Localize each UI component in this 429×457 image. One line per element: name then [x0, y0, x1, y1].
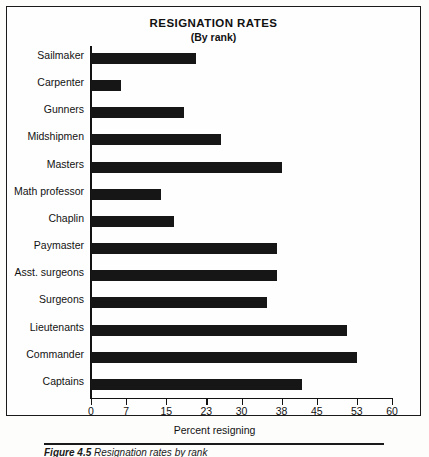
figure-caption: Figure 4.5 Resignation rates by rank	[44, 447, 404, 457]
category-label: Midshipmen	[27, 130, 84, 142]
bar	[91, 379, 302, 390]
bar	[91, 243, 277, 254]
bar	[91, 297, 267, 308]
x-tick-label: 53	[351, 405, 363, 417]
bar-row: Masters	[91, 155, 392, 182]
bar-row: Sailmaker	[91, 46, 392, 73]
chart-title-block: RESIGNATION RATES (By rank)	[7, 16, 420, 45]
category-label: Masters	[47, 158, 84, 170]
x-tick-label: 7	[123, 405, 129, 417]
caption-divider	[44, 443, 384, 445]
bar	[91, 80, 121, 91]
chart-title: RESIGNATION RATES	[7, 16, 420, 30]
bar-row: Midshipmen	[91, 127, 392, 154]
bar-row: Surgeons	[91, 290, 392, 317]
bar	[91, 352, 357, 363]
x-tick-label: 38	[276, 405, 288, 417]
x-tick-label: 30	[236, 405, 248, 417]
category-label: Math professor	[14, 185, 84, 197]
bar-row: Commander	[91, 345, 392, 372]
bar	[91, 162, 282, 173]
category-label: Captains	[43, 375, 84, 387]
bar	[91, 134, 221, 145]
chart-subtitle: (By rank)	[7, 31, 420, 44]
bar-row: Gunners	[91, 100, 392, 127]
bar-row: Paymaster	[91, 236, 392, 263]
bar	[91, 216, 174, 227]
category-label: Lieutenants	[30, 321, 84, 333]
category-label: Carpenter	[37, 76, 84, 88]
x-tick-label: 60	[386, 405, 398, 417]
bar	[91, 189, 161, 200]
x-tick-label: 45	[311, 405, 323, 417]
category-label: Surgeons	[39, 293, 84, 305]
bar-row: Asst. surgeons	[91, 263, 392, 290]
x-tick-label: 15	[160, 405, 172, 417]
plot-area: SailmakerCarpenterGunnersMidshipmenMaste…	[91, 46, 392, 399]
bar	[91, 325, 347, 336]
bar	[91, 53, 196, 64]
x-tick-label: 0	[88, 405, 94, 417]
figure-caption-text: Resignation rates by rank	[94, 447, 207, 457]
category-label: Chaplin	[48, 212, 84, 224]
category-label: Paymaster	[34, 239, 84, 251]
figure-page: RESIGNATION RATES (By rank) SailmakerCar…	[0, 0, 429, 457]
bar	[91, 270, 277, 281]
bar-row: Carpenter	[91, 73, 392, 100]
bar-rows: SailmakerCarpenterGunnersMidshipmenMaste…	[91, 46, 392, 399]
category-label: Commander	[26, 348, 84, 360]
x-tick-label: 23	[201, 405, 213, 417]
x-axis-title: Percent resigning	[0, 424, 429, 436]
bar-row: Lieutenants	[91, 318, 392, 345]
category-label: Asst. surgeons	[15, 266, 84, 278]
bar-row: Math professor	[91, 182, 392, 209]
figure-caption-label: Figure 4.5	[44, 447, 91, 457]
bar	[91, 107, 184, 118]
bar-row: Captains	[91, 372, 392, 399]
category-label: Gunners	[44, 103, 84, 115]
category-label: Sailmaker	[37, 49, 84, 61]
bar-row: Chaplin	[91, 209, 392, 236]
